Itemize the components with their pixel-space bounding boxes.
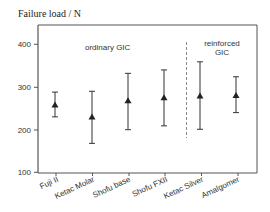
y-tick-300: 300 xyxy=(18,83,32,92)
category-labels: Fuji II Ketac Molar Shofu base Shofu FXI… xyxy=(38,174,241,200)
category-label-amalgomer: Amalgomer xyxy=(200,175,241,201)
triangle-marker-icon xyxy=(52,101,59,107)
category-label-fuji-ii: Fuji II xyxy=(38,175,60,191)
triangle-marker-icon xyxy=(125,97,132,103)
annotation-reinforced-line1: reinforced xyxy=(204,39,240,48)
y-tick-100: 100 xyxy=(18,168,32,177)
error-bar-ketac-molar xyxy=(89,91,96,143)
annotation-reinforced-line2: GIC xyxy=(215,48,229,57)
category-label-ketac-molar: Ketac Molar xyxy=(53,175,96,201)
triangle-marker-icon xyxy=(233,92,240,98)
y-tick-400: 400 xyxy=(18,40,32,49)
triangle-marker-icon xyxy=(161,94,168,100)
y-tick-200: 200 xyxy=(18,126,32,135)
annotation-ordinary-gic: ordinary GIC xyxy=(85,43,131,52)
triangle-marker-icon xyxy=(197,92,204,98)
triangle-marker-icon xyxy=(89,113,96,119)
error-bar-shofu-fxii xyxy=(161,70,168,126)
error-bar-amalgomer xyxy=(233,77,240,113)
category-label-ketac-silver: Ketac Silver xyxy=(162,175,205,201)
error-bar-fuji-ii xyxy=(52,92,59,117)
error-bar-ketac-silver xyxy=(197,62,204,129)
y-axis-title: Failure load / N xyxy=(18,8,81,19)
error-bar-shofu-base xyxy=(125,73,132,129)
y-ticks: 100 200 300 400 xyxy=(18,40,38,177)
error-bars xyxy=(52,62,240,144)
category-label-shofu-base: Shofu base xyxy=(91,174,132,199)
failure-load-chart: Failure load / N 100 200 300 400 Fuji II… xyxy=(0,0,270,212)
